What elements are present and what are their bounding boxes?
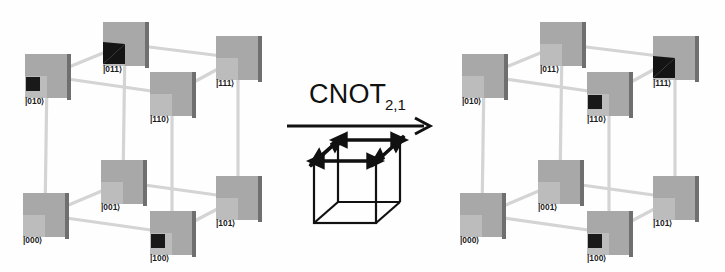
state-node-000[interactable] — [23, 193, 69, 239]
state-node-110[interactable] — [150, 72, 196, 118]
state-label-100: |100⟩ — [587, 253, 606, 263]
output-state-cube: |010⟩ |011⟩ |110⟩ |111⟩ |001⟩ |000⟩ |101… — [437, 0, 725, 272]
input-cube-svg: |010⟩ |011⟩ |110⟩ |111⟩ |001⟩ |000⟩ |101… — [0, 0, 290, 272]
right-arrow-icon — [287, 118, 430, 134]
state-label-011: |011⟩ — [103, 64, 122, 74]
state-node-100[interactable] — [587, 211, 633, 257]
state-label-110: |110⟩ — [150, 114, 169, 124]
state-node-100[interactable] — [150, 211, 196, 257]
state-node-110[interactable] — [587, 72, 633, 118]
state-label-010: |010⟩ — [462, 96, 481, 106]
state-label-001: |001⟩ — [538, 202, 557, 212]
state-node-010[interactable] — [462, 54, 508, 100]
state-node-011[interactable] — [540, 22, 586, 68]
state-node-011[interactable] — [103, 22, 149, 68]
state-node-010[interactable] — [25, 54, 71, 100]
cnot-operator-label: CNOT — [309, 79, 386, 109]
cube-edge-arrows-icon — [310, 134, 405, 167]
state-node-111[interactable] — [216, 36, 262, 82]
state-node-101[interactable] — [653, 176, 699, 222]
state-label-011: |011⟩ — [540, 64, 559, 74]
state-label-000: |000⟩ — [460, 235, 479, 245]
input-state-cube: |010⟩ |011⟩ |110⟩ |111⟩ |001⟩ |000⟩ |101… — [0, 0, 290, 272]
cnot-cube-figure: |010⟩ |011⟩ |110⟩ |111⟩ |001⟩ |000⟩ |101… — [0, 0, 725, 272]
cnot-subscript-label: 2,1 — [385, 96, 406, 113]
state-label-111: |111⟩ — [653, 78, 671, 88]
state-label-101: |101⟩ — [216, 218, 235, 228]
state-node-001[interactable] — [538, 160, 584, 206]
state-label-101: |101⟩ — [653, 218, 672, 228]
output-cube-svg: |010⟩ |011⟩ |110⟩ |111⟩ |001⟩ |000⟩ |101… — [437, 0, 725, 272]
input-cube-edges — [45, 44, 238, 233]
state-label-110: |110⟩ — [587, 114, 606, 124]
cnot-transform-svg: CNOT 2,1 — [282, 68, 442, 243]
state-label-010: |010⟩ — [25, 96, 44, 106]
state-label-001: |001⟩ — [101, 202, 120, 212]
state-label-111: |111⟩ — [216, 78, 234, 88]
cnot-transform-panel: CNOT 2,1 — [282, 68, 442, 243]
state-label-100: |100⟩ — [150, 253, 169, 263]
state-label-000: |000⟩ — [23, 235, 42, 245]
state-node-111[interactable] — [653, 36, 699, 82]
output-cube-edges — [482, 44, 675, 233]
state-node-000[interactable] — [460, 193, 506, 239]
state-node-101[interactable] — [216, 176, 262, 222]
state-node-001[interactable] — [101, 160, 147, 206]
